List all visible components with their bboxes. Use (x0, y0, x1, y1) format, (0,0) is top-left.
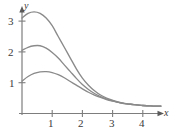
curve-middle (22, 45, 161, 106)
plot-canvas (0, 0, 173, 138)
y-tick-label-3: 3 (8, 16, 14, 27)
x-tick-label-1: 1 (48, 118, 54, 129)
x-tick-label-3: 3 (109, 118, 115, 129)
curves-group (22, 12, 161, 106)
x-tick-label-4: 4 (139, 118, 145, 129)
y-tick-label-1: 1 (9, 78, 15, 89)
figure-container: 1 2 3 4 1 2 3 x y (0, 0, 173, 138)
axes-group (19, 6, 165, 117)
y-tick-label-2: 2 (8, 47, 14, 58)
x-tick-label-2: 2 (78, 118, 84, 129)
x-axis-label: x (164, 108, 168, 118)
y-axis-label: y (24, 1, 28, 11)
